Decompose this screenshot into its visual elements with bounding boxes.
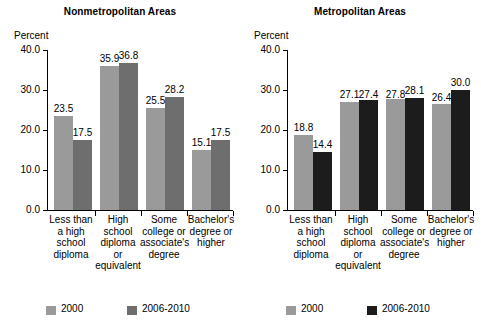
- y-tick-label-40: 40.0: [0, 44, 40, 55]
- legend-label-2006-2010: 2006-2010: [142, 303, 190, 314]
- bar-2006-2010-group2: [359, 100, 378, 210]
- bar-value-2000-group3: 25.5: [138, 95, 173, 106]
- legend-swatch-2000-icon: [286, 306, 296, 315]
- y-tick-0: [283, 210, 287, 211]
- y-tick-label-10: 10.0: [0, 164, 40, 175]
- y-tick-label-40: 40.0: [240, 44, 280, 55]
- bar-2006-2010-group2: [119, 63, 138, 210]
- bar-2000-group4: [192, 150, 211, 210]
- bar-2000-group4: [432, 104, 451, 210]
- y-tick-10: [283, 170, 287, 171]
- bar-value-2006-2010-group3: 28.2: [157, 84, 192, 95]
- y-tick-20: [43, 130, 47, 131]
- bar-value-2000-group4: 15.1: [184, 137, 219, 148]
- y-tick-10: [43, 170, 47, 171]
- y-tick-label-20: 20.0: [0, 124, 40, 135]
- bar-2006-2010-group1: [73, 140, 92, 210]
- y-tick-label-10: 10.0: [240, 164, 280, 175]
- bar-value-2006-2010-group1: 14.4: [305, 139, 340, 150]
- x-category-label-2: High school diploma or equivalent: [95, 214, 141, 272]
- legend-swatch-2000-icon: [46, 306, 56, 315]
- x-category-label-3: Some college or associate's degree: [380, 214, 428, 260]
- bar-2000-group2: [100, 66, 119, 210]
- bar-2006-2010-group3: [405, 98, 424, 210]
- bar-value-2006-2010-group2: 36.8: [111, 50, 146, 61]
- legend-swatch-2006-2010-icon: [127, 306, 137, 315]
- bar-value-2006-2010-group4: 30.0: [443, 77, 478, 88]
- bar-2000-group3: [386, 99, 405, 210]
- x-category-label-2: High school diploma or equivalent: [335, 214, 381, 272]
- panel-nonmetropolitan-areas: Nonmetropolitan Areas Percent 40.0 30.0 …: [0, 0, 240, 326]
- x-axis-line: [287, 210, 473, 211]
- y-tick-0: [43, 210, 47, 211]
- y-tick-label-0: 0.0: [240, 204, 280, 215]
- x-category-label-3: Some college or associate's degree: [140, 214, 188, 260]
- legend-label-2000: 2000: [61, 303, 83, 314]
- bar-2006-2010-group4: [451, 90, 470, 210]
- y-tick-label-20: 20.0: [240, 124, 280, 135]
- y-tick-40: [283, 50, 287, 51]
- bar-2006-2010-group1: [313, 152, 332, 210]
- x-category-label-4: Bachelor's degree or higher: [426, 214, 476, 249]
- y-axis-line: [47, 50, 48, 211]
- y-tick-40: [43, 50, 47, 51]
- bar-2000-group3: [146, 108, 165, 210]
- legend-label-2006-2010: 2006-2010: [382, 303, 430, 314]
- bar-value-2006-2010-group1: 17.5: [65, 127, 100, 138]
- bar-value-2006-2010-group4: 17.5: [203, 127, 238, 138]
- x-category-label-1: Less than a high school diploma: [48, 214, 94, 260]
- bar-value-2000-group1: 23.5: [46, 103, 81, 114]
- y-tick-label-30: 30.0: [240, 84, 280, 95]
- x-category-label-4: Bachelor's degree or higher: [186, 214, 236, 249]
- legend-swatch-2006-2010-icon: [367, 306, 377, 315]
- bar-2006-2010-group4: [211, 140, 230, 210]
- legend-label-2000: 2000: [301, 303, 323, 314]
- panel-metropolitan-areas: Metropolitan Areas Percent 40.0 30.0 20.…: [240, 0, 480, 326]
- bar-value-2000-group4: 26.4: [424, 92, 459, 103]
- bar-2006-2010-group3: [165, 97, 184, 210]
- x-category-label-1: Less than a high school diploma: [288, 214, 334, 260]
- plot-area: 40.0 30.0 20.0 10.0 0.0 18.8 14.4 27.1 2…: [240, 0, 480, 326]
- y-tick-30: [43, 90, 47, 91]
- x-axis-line: [47, 210, 233, 211]
- y-tick-30: [283, 90, 287, 91]
- bar-value-2000-group1: 18.8: [286, 122, 321, 133]
- dual-bar-chart-figure: Nonmetropolitan Areas Percent 40.0 30.0 …: [0, 0, 481, 326]
- bar-2000-group2: [340, 102, 359, 210]
- plot-area: 40.0 30.0 20.0 10.0 0.0 23.5 17.5 35.9 3…: [0, 0, 240, 326]
- y-tick-label-30: 30.0: [0, 84, 40, 95]
- y-tick-label-0: 0.0: [0, 204, 40, 215]
